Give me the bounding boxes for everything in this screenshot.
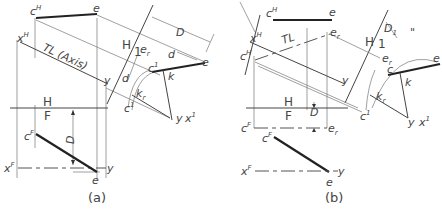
label-y-top: y [103, 74, 111, 87]
panel-b: cH e xH cH TL er y H 1 D1 " er c e k kr … [240, 2, 440, 205]
label-H1-H: H [122, 38, 131, 52]
label-cr1: c1 [360, 109, 371, 123]
dim-d-vertical [128, 56, 137, 80]
label-xH: xH [249, 31, 263, 45]
arrow-up-icon [71, 110, 75, 115]
label-e1: e [202, 56, 209, 69]
label-tl: TL [280, 31, 296, 47]
label-D-front: D [64, 136, 77, 144]
label-tl-axis: TL (Axis) [41, 41, 90, 73]
label-y-front: y [106, 162, 114, 175]
dim-D-ext [206, 34, 214, 52]
arrow-up-icon [312, 128, 316, 132]
fold-xH-side [240, 2, 255, 32]
label-crH: cH [240, 49, 252, 63]
label-crF: cF [241, 121, 252, 135]
label-y-top: y [341, 74, 349, 87]
label-H-plane: H [43, 95, 52, 109]
label-D: D [176, 26, 184, 39]
label-y-front: y [337, 165, 345, 178]
label-cF: cF [262, 131, 273, 145]
label-kr: kr [376, 90, 386, 105]
label-xH: xH [16, 31, 30, 45]
label-c1: c [387, 63, 393, 76]
label-H1-1: 1 [378, 37, 386, 51]
label-k: k [168, 70, 175, 83]
label-er: er [140, 43, 151, 58]
arrow-down-icon [71, 160, 75, 165]
panel-a: cH e xH TL (Axis) y H 1 D er d d c1 e k … [3, 2, 214, 205]
label-F-plane: F [44, 109, 51, 123]
label-x1: x1 [184, 111, 196, 125]
label-cF: cF [24, 129, 35, 143]
label-D1: D1 [384, 22, 397, 37]
caption-a: (a) [88, 190, 106, 205]
label-H1-H: H [365, 35, 374, 49]
label-xF: xF [3, 161, 16, 175]
projector-e-aux [97, 15, 205, 62]
label-H-plane: H [284, 95, 293, 109]
caption-b: (b) [325, 190, 343, 205]
label-y-aux: y [175, 112, 183, 125]
label-eH: e [93, 2, 100, 15]
line-ce-top [36, 14, 97, 18]
line-ce-front [274, 137, 329, 172]
descriptive-geometry-figure: cH e xH TL (Axis) y H 1 D er d d c1 e k … [0, 0, 442, 220]
label-x1: x1 [418, 115, 430, 129]
label-k: k [405, 76, 412, 89]
label-cH: cH [266, 6, 278, 20]
label-eH: e [329, 6, 336, 19]
label-eF: e [326, 176, 333, 189]
reference-line-xy-aux [250, 42, 345, 84]
label-xF: xF [240, 164, 253, 178]
label-kr: kr [136, 87, 146, 102]
label-c1: c1 [148, 61, 159, 75]
label-d-1: d [168, 48, 176, 61]
label-eF: e [92, 174, 99, 187]
label-F-plane: F [285, 109, 292, 123]
line-ce-aux [152, 63, 205, 72]
label-quote: " [410, 26, 415, 39]
label-cr1: c1 [124, 101, 135, 115]
label-D1-front: D [310, 106, 318, 119]
dim-d-horizontal [177, 52, 197, 60]
label-y-aux: y [407, 116, 415, 129]
label-e1: e [433, 52, 440, 65]
label-er: er [330, 26, 341, 41]
label-erF: er [328, 122, 339, 137]
label-cH: cH [30, 4, 42, 18]
label-d-2: d [122, 72, 130, 85]
